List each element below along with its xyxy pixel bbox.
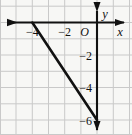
x-tick-label-neg4: −4 — [26, 25, 39, 39]
origin-label: O — [80, 25, 89, 39]
y-tick-label-neg6: −6 — [79, 114, 92, 128]
y-axis-label: y — [100, 7, 108, 21]
x-axis-label: x — [116, 25, 123, 39]
y-tick-label-neg4: −4 — [79, 81, 92, 95]
coordinate-graph-figure: −4 −2 −2 −4 −6 O x y — [0, 0, 132, 135]
graph-canvas: −4 −2 −2 −4 −6 O x y — [0, 0, 132, 135]
y-tick-label-neg2: −2 — [79, 49, 92, 63]
graph-background — [0, 0, 132, 135]
x-tick-label-neg2: −2 — [58, 25, 71, 39]
